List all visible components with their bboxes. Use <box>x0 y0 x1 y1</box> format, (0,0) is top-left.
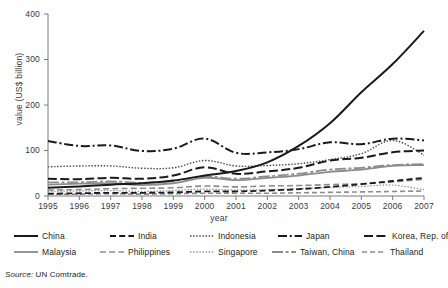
x-tick-label: 2002 <box>250 201 284 211</box>
legend-swatch-solid <box>14 248 38 256</box>
line-chart-plot <box>0 0 438 230</box>
legend-item-malaysia[interactable]: Malaysia <box>14 245 76 259</box>
source-note: Source: UN Comtrade. <box>5 270 88 279</box>
x-axis-title: year <box>0 213 438 223</box>
x-tick-label: 2006 <box>376 201 410 211</box>
x-tick-label: 2004 <box>313 201 347 211</box>
legend-row: MalaysiaPhilippinesSingaporeTaiwan, Chin… <box>14 245 428 259</box>
x-tick-label: 2003 <box>282 201 316 211</box>
legend-swatch-dashed <box>110 232 134 240</box>
legend-item-korea-rep-of[interactable]: Korea, Rep. of <box>364 229 448 243</box>
legend-swatch-dotted <box>190 232 214 240</box>
y-tick-label: 0 <box>10 191 40 201</box>
legend-swatch-med-dash <box>362 248 386 256</box>
legend-label: Thailand <box>390 247 423 257</box>
legend-label: Malaysia <box>42 247 76 257</box>
legend-item-thailand[interactable]: Thailand <box>362 245 423 259</box>
x-tick-label: 1996 <box>62 201 96 211</box>
legend-label: Japan <box>306 231 330 241</box>
legend-item-china[interactable]: China <box>14 229 65 243</box>
x-tick-label: 1999 <box>156 201 190 211</box>
x-tick-label: 1995 <box>31 201 65 211</box>
legend-swatch-dash-dot <box>278 232 302 240</box>
legend-swatch-dotted <box>190 248 214 256</box>
source-label: Source: <box>5 270 33 279</box>
x-tick-label: 2007 <box>407 201 441 211</box>
legend-item-philippines[interactable]: Philippines <box>100 245 170 259</box>
x-tick-label: 2000 <box>188 201 222 211</box>
legend-swatch-dashed <box>100 248 124 256</box>
x-tick-label: 1997 <box>94 201 128 211</box>
legend-label: Philippines <box>128 247 170 257</box>
legend-row: ChinaIndiaIndonesiaJapanKorea, Rep. of <box>14 229 428 243</box>
legend-swatch-long-dash <box>364 232 388 240</box>
legend-item-singapore[interactable]: Singapore <box>190 245 258 259</box>
series-line-japan <box>48 139 424 154</box>
legend-label: Korea, Rep. of <box>392 231 448 241</box>
legend-label: Indonesia <box>218 231 256 241</box>
y-tick-label: 400 <box>10 9 40 19</box>
y-axis-title: value (US$ billion) <box>14 34 24 144</box>
series-line-china <box>48 31 424 188</box>
x-tick-label: 2005 <box>344 201 378 211</box>
series-line-korea-rep-of <box>48 151 424 180</box>
series-line-malaysia <box>48 165 424 185</box>
legend-label: China <box>42 231 65 241</box>
legend-label: India <box>138 231 157 241</box>
series-lines <box>48 31 424 194</box>
legend-swatch-solid <box>14 232 38 240</box>
legend-item-japan[interactable]: Japan <box>278 229 330 243</box>
legend-label: Taiwan, China <box>300 247 355 257</box>
x-tick-label: 1998 <box>125 201 159 211</box>
legend-item-indonesia[interactable]: Indonesia <box>190 229 256 243</box>
chart-legend: ChinaIndiaIndonesiaJapanKorea, Rep. ofMa… <box>14 229 428 259</box>
legend-swatch-solid-dash <box>272 248 296 256</box>
legend-item-taiwan-china[interactable]: Taiwan, China <box>272 245 355 259</box>
source-value: UN Comtrade. <box>33 270 88 279</box>
x-tick-label: 2001 <box>219 201 253 211</box>
legend-label: Singapore <box>218 247 258 257</box>
legend-item-india[interactable]: India <box>110 229 157 243</box>
y-tick-label: 100 <box>10 145 40 155</box>
